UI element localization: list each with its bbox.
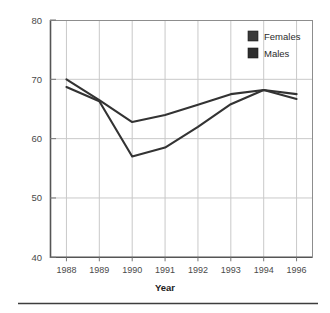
x-axis-title: Year — [155, 282, 175, 293]
chart-figure: 4050607080 19881989199019911992199319941… — [0, 0, 330, 313]
x-axis-tick-label: 1992 — [188, 265, 208, 275]
legend-swatch — [248, 48, 258, 58]
x-axis-tick-label: 1990 — [122, 265, 142, 275]
x-axis-tick-label: 1989 — [89, 265, 109, 275]
y-axis-tick-label: 80 — [31, 15, 42, 26]
x-axis-tick-labels: 19881989199019911992199319941996 — [56, 265, 306, 275]
x-axis-tick-label: 1996 — [287, 265, 307, 275]
y-axis-tick-labels: 4050607080 — [31, 15, 42, 263]
y-axis-tick-label: 40 — [31, 252, 42, 263]
y-axis-tick-label: 60 — [31, 133, 42, 144]
x-axis-tick-label: 1991 — [155, 265, 175, 275]
x-axis-tick-label: 1994 — [254, 265, 274, 275]
y-axis-tick-label: 50 — [31, 192, 42, 203]
x-axis-tick-label: 1993 — [221, 265, 241, 275]
x-axis-tick-label: 1988 — [56, 265, 76, 275]
line-chart: 4050607080 19881989199019911992199319941… — [0, 0, 330, 313]
y-axis-tick-label: 70 — [31, 74, 42, 85]
legend-swatch — [248, 31, 258, 41]
legend-label: Females — [264, 31, 301, 42]
legend-label: Males — [264, 48, 290, 59]
